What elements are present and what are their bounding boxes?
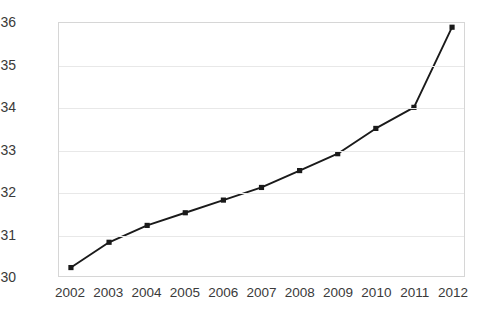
x-axis: 2002200320042005200620072008200920102011…: [58, 286, 465, 310]
y-tick-label: 31: [0, 228, 16, 242]
gridline-33: [59, 151, 464, 152]
data-point-marker: 2010: 33.5: [373, 126, 378, 131]
gridline-32: [59, 193, 464, 194]
series-line: [71, 27, 452, 267]
data-point-marker: 2008: 32.5: [297, 168, 302, 173]
gridline-31: [59, 236, 464, 237]
data-point-marker: 2009: 32.9: [335, 151, 340, 156]
data-point-marker: 2007: 32.1: [259, 185, 264, 190]
data-point-marker: 2002: 30.2: [68, 265, 73, 270]
y-tick-label: 32: [0, 185, 16, 199]
gridline-34: [59, 108, 464, 109]
gridline-35: [59, 66, 464, 67]
y-tick-label: 36: [0, 15, 16, 29]
data-point-marker: 2004: 31.2: [145, 223, 150, 228]
line-chart: 30313233343536 2002: 30.22003: 30.82004:…: [0, 0, 490, 322]
data-point-marker: 2003: 30.8: [106, 240, 111, 245]
series-layer: 2002: 30.22003: 30.82004: 31.22005: 31.5…: [59, 23, 464, 276]
y-tick-label: 35: [0, 58, 16, 72]
data-point-marker: 2012: 35.9: [449, 25, 454, 30]
y-tick-label: 34: [0, 100, 16, 114]
y-tick-label: 30: [0, 270, 16, 284]
data-point-marker: 2005: 31.5: [183, 210, 188, 215]
y-tick-label: 33: [0, 143, 16, 157]
data-point-marker: 2006: 31.8: [221, 198, 226, 203]
plot-area: 2002: 30.22003: 30.82004: 31.22005: 31.5…: [58, 22, 465, 277]
x-tick-label: 2012: [428, 286, 478, 300]
